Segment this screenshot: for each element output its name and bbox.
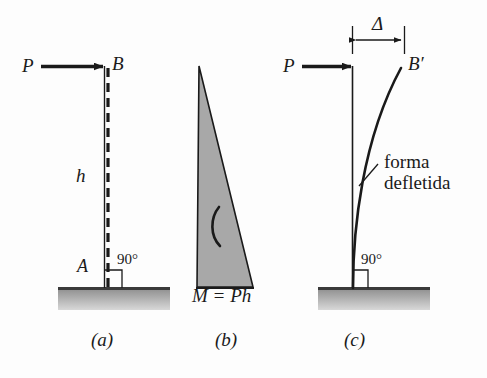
angle-label-c: 90° — [361, 252, 382, 268]
annotation-line-1: forma — [384, 152, 429, 172]
engineering-figure: P B h A 90° (a) M = Ph (b) Δ P B′ forma … — [0, 0, 487, 378]
deflection-label-c: Δ — [372, 14, 383, 34]
moment-label-b: M = Ph — [192, 286, 251, 306]
panel-caption-b: (b) — [215, 330, 237, 350]
angle-label-a: 90° — [117, 252, 138, 268]
panel-b-graphics — [196, 66, 254, 288]
ground-block-a — [58, 287, 170, 310]
panel-a-graphics — [41, 66, 170, 310]
panel-caption-c: (c) — [344, 330, 365, 350]
top-node-label-a: B — [112, 54, 124, 74]
annotation-line-2: defletida — [384, 173, 450, 193]
base-node-label-a: A — [77, 257, 88, 276]
annotation-leader-line — [359, 164, 378, 186]
moment-diagram-triangle — [197, 66, 253, 287]
height-label-a: h — [76, 166, 86, 186]
top-node-label-c: B′ — [408, 54, 424, 74]
load-label-c: P — [283, 56, 295, 76]
load-label-a: P — [22, 56, 34, 76]
right-angle-marker-c — [353, 270, 368, 288]
panel-caption-a: (a) — [91, 330, 113, 350]
ground-block-c — [318, 287, 430, 310]
